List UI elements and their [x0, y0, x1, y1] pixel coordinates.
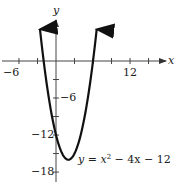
y-axis: [53, 20, 59, 182]
equation-suffix: − 4x − 12: [111, 153, 171, 166]
x-tick-label-neg6: −6: [3, 66, 19, 79]
equation-prefix: y = x: [77, 153, 107, 166]
y-axis-label: y: [52, 4, 60, 17]
x-axis: [2, 58, 166, 64]
parabola-chart: x y −6 12 −6 −12 −18 y = x2 − 4x − 12: [0, 0, 176, 190]
x-axis-label: x: [168, 54, 175, 67]
x-tick-label-12: 12: [123, 66, 137, 79]
y-tick-label-neg12: −12: [31, 128, 54, 141]
y-tick-label-neg18: −18: [31, 165, 54, 178]
y-tick-label-neg6: −6: [60, 91, 76, 104]
equation-label: y = x2 − 4x − 12: [77, 153, 171, 166]
